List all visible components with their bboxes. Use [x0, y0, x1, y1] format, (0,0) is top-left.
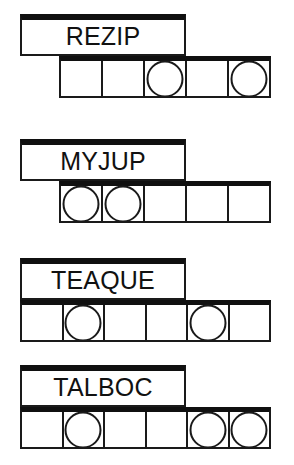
- answer-cell[interactable]: [187, 61, 229, 96]
- answer-cell-circled[interactable]: [229, 61, 269, 96]
- word-banner: TEAQUE: [20, 258, 186, 300]
- answer-cell[interactable]: [61, 61, 103, 96]
- circle-marker-icon: [231, 411, 268, 448]
- circle-marker-icon: [189, 304, 226, 341]
- word-banner: REZIP: [20, 14, 186, 56]
- answer-grid: [59, 181, 271, 223]
- circle-marker-icon: [189, 411, 226, 448]
- answer-cell[interactable]: [103, 61, 145, 96]
- answer-cell-circled[interactable]: [188, 412, 230, 447]
- answer-cell[interactable]: [22, 412, 64, 447]
- answer-cell[interactable]: [105, 412, 147, 447]
- answer-cell-circled[interactable]: [64, 412, 106, 447]
- word-label: TALBOC: [22, 375, 184, 400]
- answer-cell[interactable]: [145, 186, 187, 221]
- answer-grid: [59, 56, 271, 98]
- circle-marker-icon: [65, 411, 102, 448]
- answer-cell-circled[interactable]: [103, 186, 145, 221]
- answer-cell[interactable]: [230, 305, 270, 340]
- answer-cell-circled[interactable]: [145, 61, 187, 96]
- circle-marker-icon: [147, 60, 184, 97]
- answer-cell[interactable]: [105, 305, 147, 340]
- circle-marker-icon: [63, 185, 100, 222]
- answer-grid: [20, 300, 271, 342]
- word-label: REZIP: [22, 24, 184, 49]
- circle-marker-icon: [65, 304, 102, 341]
- circle-marker-icon: [105, 185, 142, 222]
- answer-cell-circled[interactable]: [61, 186, 103, 221]
- answer-cell[interactable]: [147, 305, 189, 340]
- answer-cell-circled[interactable]: [188, 305, 230, 340]
- word-label: MYJUP: [22, 149, 184, 174]
- answer-cell[interactable]: [229, 186, 269, 221]
- answer-cell-circled[interactable]: [230, 412, 270, 447]
- answer-cell[interactable]: [22, 305, 64, 340]
- word-label: TEAQUE: [22, 268, 184, 293]
- answer-cell[interactable]: [187, 186, 229, 221]
- puzzle-sheet: REZIP MYJUP: [0, 0, 294, 465]
- word-banner: MYJUP: [20, 139, 186, 181]
- word-banner: TALBOC: [20, 365, 186, 407]
- answer-grid: [20, 407, 271, 449]
- answer-cell[interactable]: [147, 412, 189, 447]
- circle-marker-icon: [231, 60, 268, 97]
- answer-cell-circled[interactable]: [64, 305, 106, 340]
